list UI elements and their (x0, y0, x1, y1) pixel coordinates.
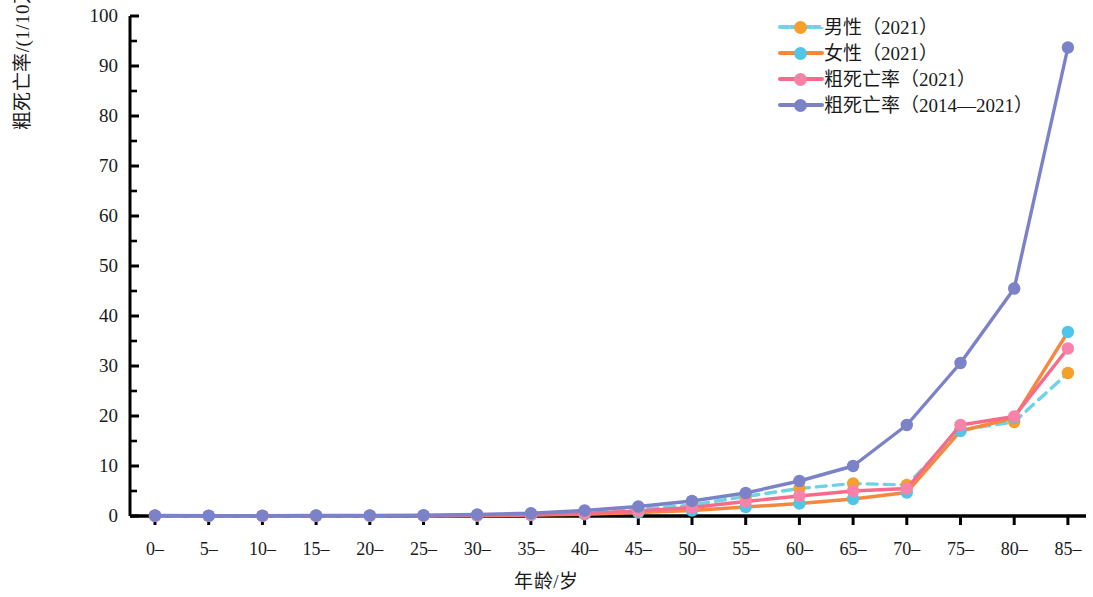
data-point-marker (525, 507, 537, 519)
data-point-marker (203, 509, 215, 521)
data-point-marker (1062, 342, 1074, 354)
legend-item-3[interactable]: 粗死亡率（2014—2021） (778, 92, 1088, 118)
data-point-marker (417, 509, 429, 521)
chart-legend: 男性（2021）女性（2021）粗死亡率（2021）粗死亡率（2014—2021… (778, 14, 1088, 118)
data-point-marker (1062, 367, 1074, 379)
data-point-marker (364, 509, 376, 521)
chart-figure: 粗死亡率/(1/10万) 年龄/岁 0102030405060708090100… (0, 0, 1093, 597)
legend-item-0[interactable]: 男性（2021） (778, 14, 1088, 40)
legend-item-2[interactable]: 粗死亡率（2021） (778, 66, 1088, 92)
data-point-marker (954, 357, 966, 369)
data-point-marker (149, 509, 161, 521)
series-line (155, 332, 1068, 516)
legend-marker-icon (794, 73, 807, 86)
series-line (155, 349, 1068, 516)
legend-swatch-icon (778, 70, 824, 88)
legend-label: 女性（2021） (824, 44, 938, 63)
data-point-marker (954, 419, 966, 431)
data-point-marker (632, 500, 644, 512)
legend-marker-icon (794, 21, 807, 34)
legend-swatch-icon (778, 44, 824, 62)
data-point-marker (793, 475, 805, 487)
legend-label: 男性（2021） (824, 18, 938, 37)
data-point-marker (901, 482, 913, 494)
data-point-marker (1062, 326, 1074, 338)
legend-label: 粗死亡率（2021） (824, 70, 976, 89)
legend-item-1[interactable]: 女性（2021） (778, 40, 1088, 66)
data-point-marker (256, 509, 268, 521)
legend-swatch-icon (778, 96, 824, 114)
data-point-marker (740, 487, 752, 499)
series-1 (149, 326, 1074, 522)
data-point-marker (901, 419, 913, 431)
data-point-marker (847, 460, 859, 472)
legend-marker-icon (794, 47, 807, 60)
legend-marker-icon (794, 99, 807, 112)
data-point-marker (686, 495, 698, 507)
data-point-marker (578, 504, 590, 516)
data-point-marker (793, 490, 805, 502)
y-axis-ticks (130, 16, 139, 516)
data-point-marker (310, 509, 322, 521)
data-point-marker (847, 485, 859, 497)
legend-swatch-icon (778, 18, 824, 36)
data-point-marker (1008, 282, 1020, 294)
series-2 (149, 342, 1074, 522)
legend-label: 粗死亡率（2014—2021） (824, 96, 1033, 115)
data-point-marker (1008, 410, 1020, 422)
series-line (155, 373, 1068, 516)
data-point-marker (471, 508, 483, 520)
